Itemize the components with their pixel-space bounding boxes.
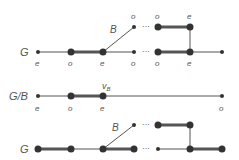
ellipsis: ··· [142, 144, 150, 153]
graph-diagram: G B ··· ··· e o e o o e o o e G/B vB e o… [0, 0, 239, 160]
parity-label: e [187, 12, 192, 21]
parity-label: e [35, 104, 40, 113]
parity-label: e [187, 59, 192, 68]
diagram-g-bottom [35, 122, 226, 153]
ellipsis: ··· [142, 47, 150, 56]
parity-label: e [100, 59, 105, 68]
diagram-g-quotient [36, 93, 224, 100]
parity-label: o [219, 104, 224, 113]
parity-label: o [131, 59, 136, 68]
graph-label: G [20, 46, 29, 58]
ellipsis: ··· [142, 120, 150, 129]
parity-label: o [131, 12, 136, 21]
parity-label: o [155, 59, 160, 68]
parity-label: o [155, 12, 160, 21]
edge-label: B [110, 24, 117, 35]
vertex-label: vB [102, 81, 111, 92]
edge-label: B [112, 122, 119, 133]
parity-label: e [100, 104, 105, 113]
graph-label: G/B [9, 90, 28, 102]
diagram-g-top [36, 24, 224, 56]
parity-label: e [35, 59, 40, 68]
ellipsis: ··· [142, 22, 150, 31]
graph-label: G [20, 143, 29, 155]
parity-label: o [68, 59, 73, 68]
parity-label: o [68, 104, 73, 113]
